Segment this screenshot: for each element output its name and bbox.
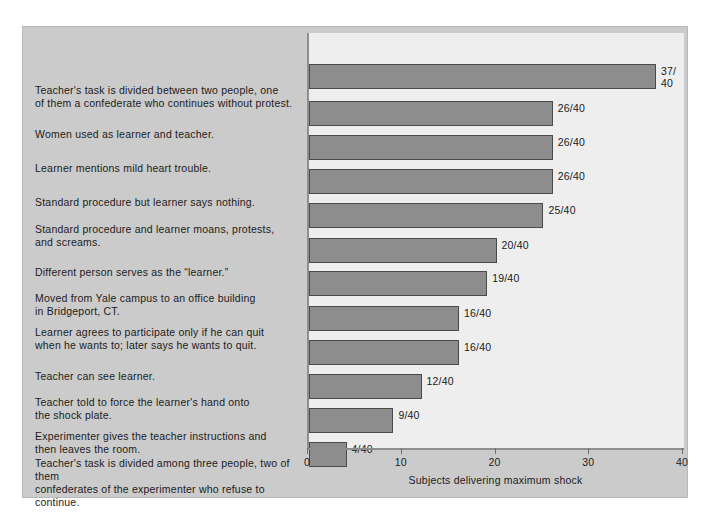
bar — [309, 408, 393, 433]
bar-value-label: 20/40 — [502, 239, 529, 251]
x-tick — [495, 448, 496, 454]
x-tick — [682, 448, 683, 454]
x-axis-line — [307, 448, 684, 450]
bar — [309, 101, 553, 126]
category-label-column: Teacher's task is divided between two pe… — [23, 27, 307, 497]
x-tick-label: 40 — [676, 456, 688, 468]
bar — [309, 340, 459, 365]
bars-container: 37/ 4026/4026/4026/4025/4020/4019/4016/4… — [309, 33, 684, 448]
bar-value-label: 37/ 40 — [661, 65, 676, 89]
bar-value-label: 25/40 — [548, 204, 575, 216]
x-tick-label: 0 — [304, 456, 310, 468]
category-label: Learner mentions mild heart trouble. — [35, 162, 307, 175]
bar-value-label: 16/40 — [464, 341, 491, 353]
x-tick-label: 20 — [488, 456, 500, 468]
x-tick — [401, 448, 402, 454]
bar — [309, 238, 497, 263]
category-label: Standard procedure and learner moans, pr… — [35, 223, 307, 249]
category-label: Moved from Yale campus to an office buil… — [35, 292, 307, 318]
x-tick — [307, 448, 308, 454]
bar-value-label: 26/40 — [558, 170, 585, 182]
bar — [309, 374, 422, 399]
bar-value-label: 12/40 — [427, 375, 454, 387]
bar-value-label: 26/40 — [558, 102, 585, 114]
x-tick-label: 30 — [582, 456, 594, 468]
category-label: Teacher can see learner. — [35, 370, 307, 383]
bar — [309, 203, 543, 228]
x-tick-label: 10 — [395, 456, 407, 468]
bar — [309, 64, 656, 89]
category-label: Teacher told to force the learner's hand… — [35, 396, 307, 422]
chart-figure: Teacher's task is divided between two pe… — [22, 26, 688, 498]
x-axis-title: Subjects delivering maximum shock — [307, 474, 684, 486]
category-label: Teacher's task is divided among three pe… — [35, 457, 307, 509]
bar-value-label: 19/40 — [492, 272, 519, 284]
bar — [309, 271, 487, 296]
category-label: Different person serves as the “learner.… — [35, 266, 307, 279]
category-label: Learner agrees to participate only if he… — [35, 326, 307, 352]
category-label: Women used as learner and teacher. — [35, 128, 307, 141]
bar — [309, 169, 553, 194]
bar — [309, 306, 459, 331]
category-label: Teacher's task is divided between two pe… — [35, 84, 307, 110]
bar-value-label: 26/40 — [558, 136, 585, 148]
bar — [309, 442, 347, 467]
x-axis: 010203040 — [307, 448, 684, 449]
category-label: Standard procedure but learner says noth… — [35, 196, 307, 209]
bar — [309, 135, 553, 160]
category-label: Experimenter gives the teacher instructi… — [35, 430, 307, 456]
plot-area: 37/ 4026/4026/4026/4025/4020/4019/4016/4… — [307, 33, 684, 448]
bar-value-label: 16/40 — [464, 307, 491, 319]
x-tick — [588, 448, 589, 454]
bar-value-label: 9/40 — [398, 409, 419, 421]
